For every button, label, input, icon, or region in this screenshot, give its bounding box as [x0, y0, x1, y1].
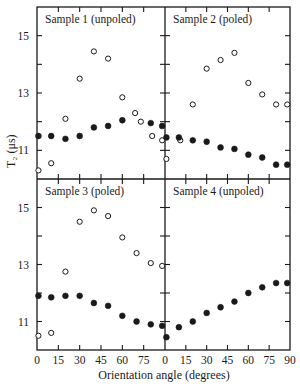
- open-data-point: [77, 219, 82, 224]
- y-tick-label: 11: [18, 316, 29, 328]
- filled-data-point: [176, 135, 182, 141]
- x-tick-label: 15: [53, 354, 65, 366]
- filled-data-point: [105, 123, 111, 129]
- open-data-point: [190, 102, 195, 107]
- x-axis-label: Orientation angle (degrees): [98, 368, 229, 382]
- open-data-point: [49, 161, 54, 166]
- filled-data-point: [232, 146, 238, 152]
- filled-data-point: [63, 136, 69, 142]
- filled-data-point: [259, 155, 265, 161]
- filled-data-point: [134, 319, 140, 325]
- x-tick-label: 75: [263, 354, 275, 366]
- open-data-point: [164, 156, 169, 161]
- filled-data-point: [204, 139, 210, 145]
- filled-data-point: [91, 300, 97, 306]
- tick-labels: 111315111315015304560750153045607590: [18, 30, 297, 366]
- x-tick-label: 45: [222, 354, 234, 366]
- x-tick-label: 0: [34, 354, 40, 366]
- filled-data-point: [245, 152, 251, 158]
- open-data-point: [204, 66, 209, 71]
- open-data-point: [36, 168, 41, 173]
- filled-data-point: [159, 323, 165, 329]
- filled-data-point: [148, 321, 154, 327]
- open-data-point: [218, 57, 223, 62]
- y-axis-label: T₂ (μs): [4, 134, 19, 168]
- open-data-point: [260, 92, 265, 97]
- filled-data-point: [77, 293, 83, 299]
- x-tick-label: 30: [74, 354, 86, 366]
- filled-data-point: [48, 294, 54, 300]
- panel-label: Sample 4 (unpoled): [173, 185, 264, 198]
- y-tick-label: 13: [18, 87, 30, 99]
- open-data-point: [246, 80, 251, 85]
- filled-data-point: [218, 145, 224, 151]
- filled-data-point: [48, 133, 54, 139]
- filled-data-point: [159, 123, 165, 129]
- open-data-point: [63, 116, 68, 121]
- open-data-point: [120, 95, 125, 100]
- x-tick-label: 75: [138, 354, 150, 366]
- open-data-point: [106, 213, 111, 218]
- x-tick-label: 15: [180, 354, 192, 366]
- open-data-point: [285, 102, 290, 107]
- filled-data-point: [204, 310, 210, 316]
- y-tick-label: 13: [18, 259, 30, 271]
- x-tick-label: 60: [117, 354, 129, 366]
- x-tick-label: 60: [243, 354, 255, 366]
- filled-data-point: [119, 117, 125, 123]
- open-data-point: [49, 330, 54, 335]
- open-data-point: [133, 110, 138, 115]
- filled-data-point: [218, 304, 224, 310]
- filled-data-point: [36, 293, 42, 299]
- filled-data-point: [36, 133, 42, 139]
- filled-data-point: [190, 137, 196, 143]
- filled-data-point: [176, 324, 182, 330]
- open-data-point: [150, 133, 155, 138]
- open-data-point: [106, 56, 111, 61]
- open-data-point: [160, 263, 165, 268]
- filled-data-point: [63, 293, 69, 299]
- filled-data-point: [284, 280, 290, 286]
- open-data-point: [138, 119, 143, 124]
- plot-frame: [37, 7, 290, 350]
- open-data-point: [120, 235, 125, 240]
- panel-label: Sample 1 (unpoled): [45, 13, 136, 26]
- open-data-point: [91, 49, 96, 54]
- open-data-point: [77, 76, 82, 81]
- filled-data-point: [284, 162, 290, 168]
- y-tick-label: 15: [18, 30, 30, 42]
- filled-data-point: [91, 125, 97, 131]
- chart-figure: Sample 1 (unpoled)Sample 2 (poled)Sample…: [0, 0, 300, 388]
- filled-data-point: [232, 299, 238, 305]
- x-tick-label: 45: [95, 354, 107, 366]
- filled-data-point: [119, 313, 125, 319]
- open-data-point: [274, 102, 279, 107]
- y-axis-label-text: T₂ (μs): [4, 134, 18, 168]
- filled-data-point: [148, 120, 154, 126]
- filled-data-point: [273, 162, 279, 168]
- open-data-point: [148, 260, 153, 265]
- filled-data-point: [259, 284, 265, 290]
- x-tick-label: 0: [162, 354, 168, 366]
- filled-data-point: [190, 319, 196, 325]
- panel-labels: Sample 1 (unpoled)Sample 2 (poled)Sample…: [45, 13, 264, 198]
- panel-label: Sample 3 (poled): [45, 185, 124, 198]
- filled-data-point: [77, 133, 83, 139]
- open-data-point: [232, 50, 237, 55]
- filled-data-point: [105, 303, 111, 309]
- open-data-point: [134, 251, 139, 256]
- panel-label: Sample 2 (poled): [173, 13, 252, 26]
- filled-data-point: [273, 280, 279, 286]
- open-data-point: [91, 208, 96, 213]
- filled-data-point: [245, 290, 251, 296]
- y-tick-label: 11: [18, 144, 29, 156]
- x-tick-label: 30: [201, 354, 213, 366]
- filled-data-point: [163, 135, 169, 141]
- y-tick-label: 15: [18, 202, 30, 214]
- filled-data-point: [163, 334, 169, 340]
- open-data-point: [36, 333, 41, 338]
- x-tick-label: 90: [284, 354, 296, 366]
- open-data-point: [63, 269, 68, 274]
